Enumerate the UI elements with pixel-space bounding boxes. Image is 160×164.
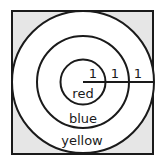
ring-label-blue: blue bbox=[69, 111, 97, 126]
ring-label-red: red bbox=[72, 86, 93, 101]
ring-label-yellow: yellow bbox=[61, 133, 103, 148]
segment-label-1: 1 bbox=[89, 66, 97, 81]
target-diagram: 1 1 1 red blue yellow bbox=[0, 0, 160, 164]
segment-label-2: 1 bbox=[111, 66, 119, 81]
segment-label-3: 1 bbox=[134, 66, 142, 81]
